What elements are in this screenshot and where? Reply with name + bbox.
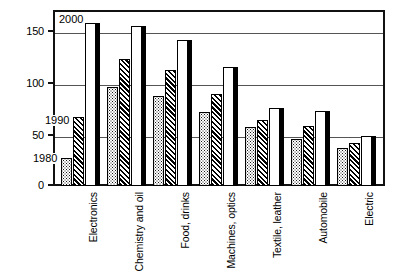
y-tick-label-0: 0: [4, 180, 44, 191]
bar-textile-leather-2000: [269, 108, 280, 186]
y-tick-mark-150: [48, 30, 53, 32]
x-axis-label-food-drinks: Food, drinks: [180, 192, 191, 249]
bar-electric-1990: [349, 143, 360, 186]
y-tick-label-150: 150: [4, 26, 44, 37]
series-annotation-1990: 1990: [44, 115, 70, 126]
bar-electric-2000: [361, 136, 372, 186]
bar-group-textile-leather: [245, 12, 287, 186]
series-annotation-1980: 1980: [32, 153, 58, 164]
bar-food-drinks-1980: [153, 96, 164, 186]
y-tick-mark-100: [48, 82, 53, 84]
bar-electronics-1980: [61, 158, 72, 186]
bar-chart: 150 100 50 0: [0, 0, 398, 280]
x-axis-label-automobile: Automobile: [318, 192, 329, 244]
series-annotation-2000: 2000: [58, 14, 84, 25]
bar-machines-optics-2000: [223, 67, 234, 186]
y-tick-label-50: 50: [4, 130, 44, 141]
bar-textile-leather-1990: [257, 120, 268, 186]
bar-food-drinks-2000: [177, 40, 188, 186]
y-tick-mark-50: [48, 134, 53, 136]
bar-chemistry-and-oil-1990: [119, 59, 130, 186]
bar-group-automobile: [291, 12, 333, 186]
x-axis-label-textile-leather: Textile, leather: [272, 192, 283, 258]
bar-automobile-1980: [291, 139, 302, 186]
y-tick-label-100: 100: [4, 78, 44, 89]
bar-group-food-drinks: [153, 12, 195, 186]
bar-group-chemistry-and-oil: [107, 12, 149, 186]
x-axis-label-machines-optics: Machines, optics: [226, 192, 237, 269]
x-axis-label-electric: Electric: [364, 192, 375, 226]
bar-automobile-2000: [315, 111, 326, 186]
bar-group-electronics: [61, 12, 103, 186]
bar-textile-leather-1980: [245, 127, 256, 186]
bar-machines-optics-1990: [211, 94, 222, 186]
bars-layer: [55, 12, 383, 186]
bar-electronics-2000: [85, 23, 96, 186]
bar-group-electric: [337, 12, 379, 186]
bar-group-machines-optics: [199, 12, 241, 186]
bar-electric-1980: [337, 148, 348, 187]
x-axis-label-chemistry-and-oil: Chemistry and oil: [134, 192, 145, 271]
bar-food-drinks-1990: [165, 70, 176, 186]
bar-chemistry-and-oil-2000: [131, 26, 142, 186]
x-axis-label-electronics: Electronics: [88, 192, 99, 242]
bar-chemistry-and-oil-1980: [107, 87, 118, 186]
y-tick-mark-0: [48, 184, 53, 186]
bar-electronics-1990: [73, 117, 84, 186]
bar-machines-optics-1980: [199, 112, 210, 186]
bar-automobile-1990: [303, 126, 314, 186]
